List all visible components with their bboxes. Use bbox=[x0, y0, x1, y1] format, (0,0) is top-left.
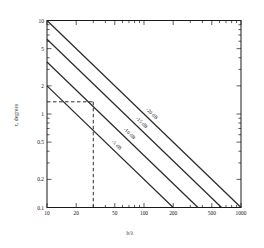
svg-text:-20 dB: -20 dB bbox=[145, 107, 159, 121]
x-axis-tick-labels: 1020501002005001000 bbox=[44, 210, 246, 216]
svg-text:2: 2 bbox=[41, 83, 44, 89]
svg-text:200: 200 bbox=[169, 210, 177, 216]
svg-text:1: 1 bbox=[41, 111, 44, 117]
svg-text:500: 500 bbox=[208, 210, 216, 216]
y-axis-tick-labels: 0.10.20.512510 bbox=[37, 18, 44, 211]
svg-text:10: 10 bbox=[39, 18, 45, 24]
svg-text:-10 dB: -10 dB bbox=[123, 127, 137, 141]
svg-text:100: 100 bbox=[140, 210, 148, 216]
y-axis-title: τ, degrees bbox=[13, 85, 19, 145]
svg-text:1000: 1000 bbox=[236, 210, 247, 216]
svg-text:0.2: 0.2 bbox=[37, 176, 44, 182]
svg-text:5: 5 bbox=[41, 46, 44, 52]
svg-text:20: 20 bbox=[74, 210, 80, 216]
svg-text:-15 dB: -15 dB bbox=[135, 116, 149, 130]
plot-canvas: 0.10.20.512510 1020501002005001000 -5 dB… bbox=[0, 0, 264, 248]
annotation-lines bbox=[47, 102, 93, 208]
curve-labels: -5 dB-10 dB-15 dB-20 dB bbox=[111, 107, 160, 151]
svg-text:0.1: 0.1 bbox=[37, 205, 44, 211]
svg-text:0.5: 0.5 bbox=[37, 139, 44, 145]
chart-figure: τ, degrees b/λ 0.10.20.512510 1020501002… bbox=[0, 0, 264, 248]
data-curves bbox=[47, 21, 241, 208]
svg-text:10: 10 bbox=[44, 210, 50, 216]
x-axis-title: b/λ bbox=[100, 230, 160, 236]
svg-text:50: 50 bbox=[112, 210, 118, 216]
